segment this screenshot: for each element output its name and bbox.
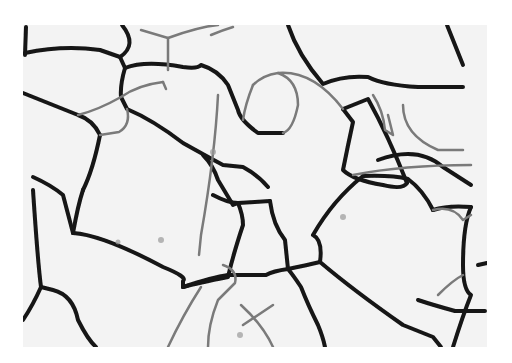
micrograph-image: Grayscale optical micrograph showing pol… (23, 25, 487, 347)
grain-boundaries (23, 25, 487, 347)
